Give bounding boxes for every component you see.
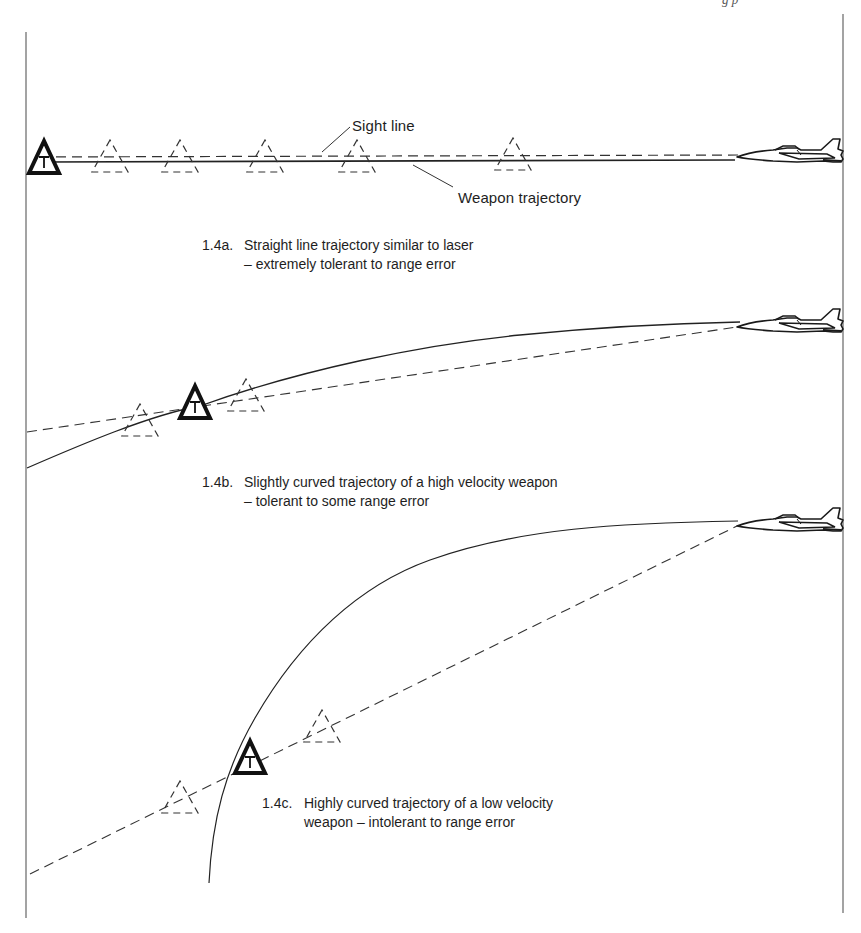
jet-aircraft-icon: [737, 309, 843, 332]
caption-line-1: Slightly curved trajectory of a high vel…: [244, 474, 558, 490]
caption-1-4a: 1.4a.Straight line trajectory similar to…: [202, 236, 474, 274]
sight-line: [40, 155, 738, 157]
trajectory-leader: [413, 165, 453, 187]
weapon-trajectory: [44, 160, 735, 162]
caption-line-2: weapon – intolerant to range error: [304, 814, 515, 830]
weapon-trajectory: [27, 322, 740, 468]
caption-number: 1.4c.: [262, 794, 304, 813]
figure-1-4a: [29, 127, 843, 187]
figure-1-4b: [27, 309, 843, 468]
caption-line-1: Highly curved trajectory of a low veloci…: [304, 795, 553, 811]
caption-1-4c: 1.4c.Highly curved trajectory of a low v…: [262, 794, 553, 832]
sight-line-leader: [322, 127, 350, 152]
dashed-triangle-icon: [122, 404, 158, 436]
caption-line-2: – extremely tolerant to range error: [244, 256, 456, 272]
jet-aircraft-icon: [737, 508, 843, 531]
dashed-triangle-icon: [162, 781, 198, 813]
jet-aircraft-icon: [737, 139, 843, 162]
caption-line-1: Straight line trajectory similar to lase…: [244, 237, 474, 253]
caption-number: 1.4b.: [202, 473, 244, 492]
triangle-target-icon: [29, 141, 59, 173]
dashed-triangle-icon: [304, 710, 340, 742]
sight-line-label: Sight line: [352, 116, 415, 136]
triangle-target-icon: [235, 741, 265, 773]
triangle-target-icon: [180, 386, 210, 418]
dashed-triangle-icon: [495, 138, 531, 170]
weapon-trajectory-label: Weapon trajectory: [458, 188, 581, 208]
caption-1-4b: 1.4b.Slightly curved trajectory of a hig…: [202, 473, 558, 511]
caption-number: 1.4a.: [202, 236, 244, 255]
dashed-triangle-icon: [92, 140, 128, 172]
caption-line-2: – tolerant to some range error: [244, 493, 429, 509]
